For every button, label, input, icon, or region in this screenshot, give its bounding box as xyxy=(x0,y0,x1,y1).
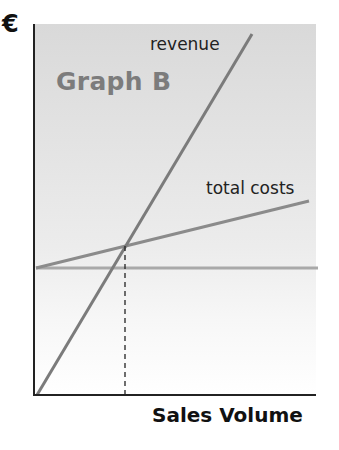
revenue-label: revenue xyxy=(150,34,220,54)
y-axis-label: € xyxy=(2,10,19,38)
chart-title: Graph B xyxy=(56,67,171,96)
x-axis-label: Sales Volume xyxy=(152,403,303,427)
total-costs-label: total costs xyxy=(206,178,294,198)
